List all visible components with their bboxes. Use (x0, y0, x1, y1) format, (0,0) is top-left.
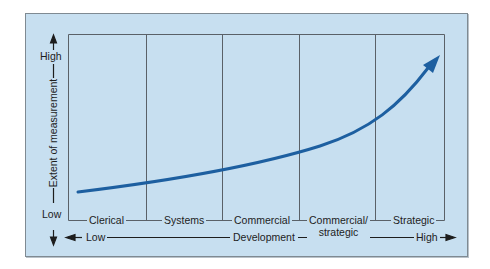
stage-label-commercial-strategic: Commercial/ strategic (307, 214, 370, 238)
y-axis-low-label: Low (42, 208, 61, 220)
stage-label-commercial-strategic-line1: Commercial/ (309, 214, 368, 226)
stage-label-systems: Systems (162, 214, 206, 226)
stage-label-clerical: Clerical (87, 214, 126, 226)
y-axis-title: Extent of measurement (47, 78, 59, 188)
x-axis-title: Development (230, 231, 298, 243)
y-axis-high-label: High (40, 50, 62, 62)
stage-label-strategic: Strategic (391, 214, 436, 226)
arrow-up-icon (51, 35, 57, 43)
diagram-graphics (0, 0, 490, 269)
stage-label-commercial: Commercial (232, 214, 292, 226)
arrow-right-icon (446, 235, 455, 241)
x-axis-high-label: High (414, 231, 440, 243)
arrow-left-icon (66, 235, 75, 241)
stage-label-commercial-strategic-line2: strategic (319, 226, 359, 238)
arrow-down-icon (51, 237, 57, 245)
x-axis-low-label: Low (84, 231, 107, 243)
